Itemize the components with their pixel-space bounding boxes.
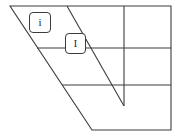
label-chip-i-upper[interactable]: I bbox=[65, 33, 86, 54]
label-chip-i-lower-text: i bbox=[38, 17, 41, 28]
diagram-svg bbox=[0, 0, 180, 137]
label-chip-i-upper-text: I bbox=[74, 39, 77, 49]
diagram-canvas: i I bbox=[0, 0, 180, 137]
label-chip-i-lower[interactable]: i bbox=[29, 12, 51, 33]
